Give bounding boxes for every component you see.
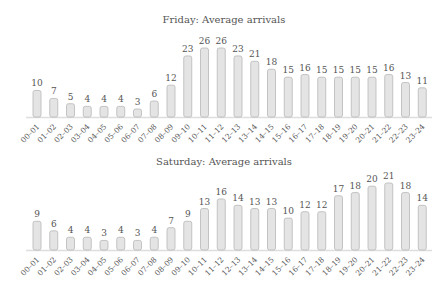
bar-value-label: 3 bbox=[135, 97, 141, 107]
x-tick-label: 23–24 bbox=[404, 255, 427, 278]
bar: 16 bbox=[383, 63, 395, 117]
bar: 23 bbox=[182, 44, 194, 117]
bar: 10 bbox=[283, 206, 295, 250]
bar: 4 bbox=[150, 225, 158, 250]
bar-value-label: 15 bbox=[333, 65, 345, 75]
bar: 14 bbox=[232, 193, 244, 250]
bar: 14 bbox=[417, 193, 429, 250]
bar: 4 bbox=[67, 225, 75, 250]
bar: 7 bbox=[167, 216, 175, 250]
bar: 18 bbox=[400, 181, 412, 250]
bar-value-label: 23 bbox=[182, 44, 194, 54]
bar: 13 bbox=[249, 197, 261, 250]
bar: 6 bbox=[150, 89, 158, 117]
bar: 15 bbox=[366, 65, 378, 117]
bar-value-label: 4 bbox=[118, 225, 124, 235]
bar-value-label: 16 bbox=[383, 63, 395, 73]
bar-value-label: 21 bbox=[383, 171, 394, 181]
friday-chart: Friday: Average arrivals 1000–01701–0250… bbox=[0, 0, 448, 148]
bar: 26 bbox=[199, 36, 211, 117]
bar: 4 bbox=[83, 225, 91, 250]
bar-value-label: 15 bbox=[350, 65, 362, 75]
bar: 15 bbox=[333, 65, 345, 117]
bar: 9 bbox=[184, 209, 192, 250]
bar-value-label: 9 bbox=[185, 209, 191, 219]
bar-value-label: 6 bbox=[151, 89, 157, 99]
bar: 20 bbox=[366, 174, 378, 250]
bar-value-label: 13 bbox=[266, 197, 278, 207]
bar: 21 bbox=[249, 49, 260, 117]
bar: 21 bbox=[383, 171, 394, 250]
bar: 18 bbox=[350, 181, 362, 250]
bar-value-label: 15 bbox=[316, 65, 328, 75]
bar: 16 bbox=[216, 187, 228, 250]
bar-value-label: 18 bbox=[266, 57, 278, 67]
bar: 9 bbox=[33, 209, 41, 250]
bar-value-label: 3 bbox=[101, 228, 107, 238]
bar: 7 bbox=[50, 86, 58, 117]
bar: 11 bbox=[417, 76, 428, 117]
bar: 15 bbox=[350, 65, 362, 117]
bar: 5 bbox=[67, 92, 75, 117]
bar-value-label: 15 bbox=[283, 65, 295, 75]
bar-value-label: 14 bbox=[417, 193, 429, 203]
bar: 3 bbox=[134, 228, 142, 250]
bar-value-label: 10 bbox=[283, 206, 295, 216]
friday-bar-plot: 1000–01701–02502–03403–04404–05405–06306… bbox=[0, 0, 448, 148]
bar-value-label: 17 bbox=[333, 184, 345, 194]
saturday-bar-plot: 900–01601–02402–03403–04304–05405–06306–… bbox=[0, 148, 448, 296]
bar-value-label: 26 bbox=[199, 36, 211, 46]
bar-value-label: 13 bbox=[400, 71, 412, 81]
bar: 16 bbox=[299, 63, 311, 117]
bar-value-label: 21 bbox=[249, 49, 260, 59]
bar: 18 bbox=[266, 57, 278, 117]
bar-value-label: 4 bbox=[118, 94, 124, 104]
bar-value-label: 7 bbox=[51, 86, 57, 96]
bar-value-label: 4 bbox=[101, 94, 107, 104]
bar: 3 bbox=[100, 228, 108, 250]
bar-value-label: 4 bbox=[84, 225, 90, 235]
bar-value-label: 18 bbox=[350, 181, 362, 191]
bar-value-label: 20 bbox=[366, 174, 378, 184]
bar: 13 bbox=[199, 197, 211, 250]
x-tick-label: 23–24 bbox=[404, 122, 427, 145]
bar: 17 bbox=[333, 184, 345, 250]
bar-value-label: 6 bbox=[51, 219, 57, 229]
bar: 13 bbox=[400, 71, 412, 118]
bar: 4 bbox=[117, 225, 125, 250]
bar: 3 bbox=[134, 97, 142, 117]
bar-value-label: 12 bbox=[299, 200, 310, 210]
bar: 12 bbox=[316, 200, 327, 250]
bar-value-label: 4 bbox=[151, 225, 157, 235]
bar-value-label: 4 bbox=[68, 225, 74, 235]
bar: 4 bbox=[117, 94, 125, 117]
bar-value-label: 3 bbox=[135, 228, 141, 238]
bar: 12 bbox=[299, 200, 310, 250]
bar-value-label: 4 bbox=[84, 94, 90, 104]
bar: 12 bbox=[165, 73, 176, 117]
bar-value-label: 14 bbox=[232, 193, 244, 203]
bar-value-label: 10 bbox=[31, 78, 43, 88]
bar-value-label: 26 bbox=[216, 36, 228, 46]
bar: 4 bbox=[83, 94, 91, 117]
bar: 15 bbox=[283, 65, 295, 117]
bar-value-label: 16 bbox=[216, 187, 228, 197]
bar: 4 bbox=[100, 94, 108, 117]
bar-value-label: 9 bbox=[34, 209, 40, 219]
bar-value-label: 23 bbox=[232, 44, 244, 54]
bar: 6 bbox=[50, 219, 58, 250]
bar-value-label: 13 bbox=[199, 197, 211, 207]
bar-value-label: 13 bbox=[249, 197, 261, 207]
bar: 10 bbox=[31, 78, 43, 117]
bar-value-label: 12 bbox=[316, 200, 327, 210]
bar-value-label: 12 bbox=[165, 73, 176, 83]
bar-value-label: 7 bbox=[168, 216, 174, 226]
bar-value-label: 16 bbox=[299, 63, 311, 73]
bar-value-label: 11 bbox=[417, 76, 428, 86]
bar: 26 bbox=[216, 36, 228, 117]
bar-value-label: 5 bbox=[68, 92, 74, 102]
bar-value-label: 18 bbox=[400, 181, 412, 191]
bar: 13 bbox=[266, 197, 278, 250]
saturday-chart: Saturday: Average arrivals 900–01601–024… bbox=[0, 148, 448, 296]
bar: 15 bbox=[316, 65, 328, 117]
